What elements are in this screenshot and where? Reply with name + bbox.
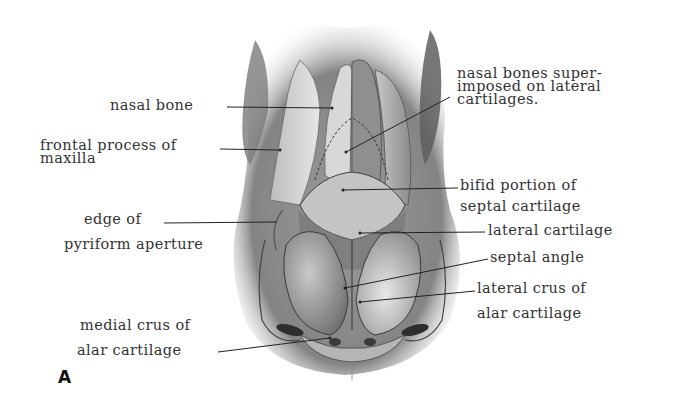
label-lateral-crus: lateral crus of alar cartilage	[477, 282, 586, 320]
label-septal-angle: septal angle	[490, 251, 584, 264]
label-edge-pyriform: edge of pyriform aperture	[84, 213, 203, 251]
label-frontal-process: frontal process of maxilla	[40, 139, 177, 165]
figure-letter: A	[58, 367, 71, 387]
label-lateral-cartilage: lateral cartilage	[488, 224, 613, 237]
label-nasal-bone: nasal bone	[110, 99, 193, 112]
label-medial-crus: medial crus of alar cartilage	[80, 319, 190, 357]
label-bifid-portion: bifid portion of septal cartilage	[460, 179, 581, 213]
label-nasal-bones-superimposed: nasal bones super- imposed on lateral ca…	[457, 67, 602, 106]
